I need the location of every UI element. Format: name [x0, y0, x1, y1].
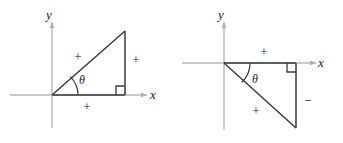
right-theta-label: θ — [252, 72, 258, 86]
right-hypotenuse — [224, 63, 296, 128]
figure-root: x y θ + + + x y θ — [0, 0, 343, 143]
right-horizontal-leg-sign: + — [260, 44, 267, 59]
right-right-angle-icon — [287, 63, 296, 72]
right-y-axis-label: y — [216, 7, 224, 22]
right-vertical-leg-sign: − — [304, 93, 311, 108]
right-diagram: x y θ + − + — [0, 0, 343, 143]
right-x-axis-label: x — [317, 55, 324, 70]
right-hypotenuse-sign: + — [252, 103, 259, 118]
